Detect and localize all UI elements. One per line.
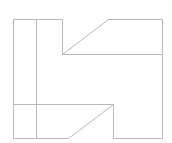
diagram-svg — [0, 0, 172, 143]
inner-lines — [14, 20, 163, 139]
shape-outline — [14, 20, 163, 139]
diagram-canvas — [0, 0, 172, 143]
